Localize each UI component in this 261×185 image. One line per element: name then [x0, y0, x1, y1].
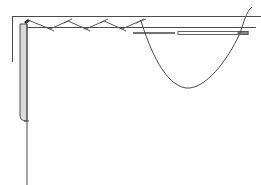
- folded-hem: [20, 24, 29, 185]
- hem-stitch-diagram: [0, 0, 261, 185]
- cross-stitch-thread: [28, 19, 146, 31]
- needle-icon: [133, 32, 248, 35]
- working-thread-loop: [141, 7, 252, 88]
- thread-knot-icon: [24, 19, 30, 24]
